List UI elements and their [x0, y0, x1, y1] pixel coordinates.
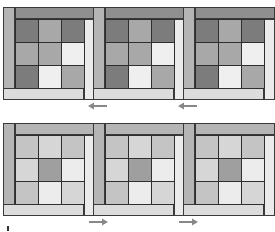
grid-cell — [218, 19, 242, 43]
grid-cell — [105, 42, 129, 66]
grid-cell — [61, 158, 85, 182]
panel-bottom-bar — [93, 88, 174, 100]
panel-top-bar — [105, 123, 185, 135]
grid-cell — [241, 19, 265, 43]
grid-cell — [38, 158, 62, 182]
arrow-left-icon — [178, 102, 198, 110]
panel-bottom-bar — [93, 204, 174, 216]
grid-cell — [241, 42, 265, 66]
panel-top-bar — [15, 123, 95, 135]
grid-cell — [38, 181, 62, 205]
panel-top-bar — [105, 7, 185, 19]
panel-left-bar — [93, 123, 105, 216]
grid-cell — [218, 135, 242, 159]
panel-bottom-bar — [183, 204, 264, 216]
grid-cell — [61, 19, 85, 43]
grid-cell — [128, 19, 152, 43]
grid-cell — [128, 135, 152, 159]
grid-cell — [15, 19, 39, 43]
tick-mark — [7, 226, 9, 231]
grid-cell — [195, 158, 219, 182]
arrow-right-icon — [88, 218, 108, 226]
grid-cell — [38, 19, 62, 43]
grid-cell — [128, 158, 152, 182]
panel-left-bar — [183, 123, 195, 216]
grid-cell — [105, 135, 129, 159]
arrow-left-icon — [88, 102, 108, 110]
panel-top-bar — [15, 7, 95, 19]
grid-cell — [195, 42, 219, 66]
grid-cell — [195, 19, 219, 43]
grid-cell — [151, 65, 175, 89]
grid-cell — [218, 42, 242, 66]
arrow-right-icon — [178, 218, 198, 226]
grid-cell — [38, 65, 62, 89]
grid-cell — [151, 181, 175, 205]
grid-cell — [15, 181, 39, 205]
grid-cell — [151, 158, 175, 182]
panel-top-bar — [195, 123, 275, 135]
grid-cell — [218, 181, 242, 205]
grid-cell — [241, 181, 265, 205]
grid-cell — [15, 65, 39, 89]
panel-left-bar — [93, 7, 105, 100]
panel-bottom-bar — [3, 88, 84, 100]
grid-cell — [151, 19, 175, 43]
grid-cell — [38, 135, 62, 159]
grid-cell — [105, 158, 129, 182]
grid-cell — [241, 135, 265, 159]
grid-cell — [128, 42, 152, 66]
grid-cell — [15, 158, 39, 182]
grid-cell — [15, 42, 39, 66]
grid-cell — [195, 181, 219, 205]
panel-left-bar — [183, 7, 195, 100]
panel-left-bar — [3, 123, 15, 216]
grid-cell — [128, 65, 152, 89]
grid-cell — [151, 135, 175, 159]
grid-cell — [61, 135, 85, 159]
grid-cell — [105, 65, 129, 89]
grid-cell — [61, 65, 85, 89]
panel-right-strip — [264, 19, 275, 100]
grid-cell — [218, 158, 242, 182]
panel-left-bar — [3, 7, 15, 100]
grid-cell — [195, 65, 219, 89]
panel-top-bar — [195, 7, 275, 19]
grid-cell — [195, 135, 219, 159]
panel-right-strip — [264, 135, 275, 216]
grid-cell — [15, 135, 39, 159]
grid-cell — [151, 42, 175, 66]
grid-cell — [218, 65, 242, 89]
grid-cell — [61, 42, 85, 66]
grid-cell — [241, 65, 265, 89]
grid-cell — [61, 181, 85, 205]
grid-cell — [128, 181, 152, 205]
panel-bottom-bar — [3, 204, 84, 216]
grid-cell — [105, 181, 129, 205]
grid-cell — [105, 19, 129, 43]
grid-cell — [38, 42, 62, 66]
panel-bottom-bar — [183, 88, 264, 100]
grid-cell — [241, 158, 265, 182]
